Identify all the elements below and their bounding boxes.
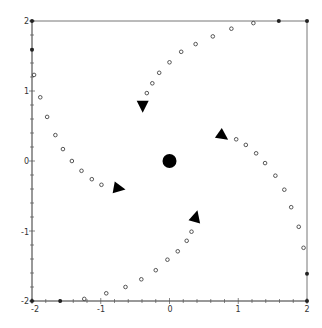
trajectory-point	[168, 61, 172, 65]
trajectory-point	[70, 159, 74, 163]
trajectory-point	[254, 152, 258, 156]
trajectory-point	[104, 292, 108, 296]
trajectory-point	[154, 268, 158, 272]
y-tick-label: 1	[24, 87, 29, 96]
boundary-dot	[305, 19, 309, 23]
trajectory-point	[230, 27, 234, 31]
trajectory-point	[234, 138, 238, 142]
y-tick-label: 0	[24, 157, 29, 166]
series-trajectory-top	[145, 21, 255, 95]
trajectory-point	[263, 161, 267, 165]
trajectory-point	[90, 177, 94, 181]
y-tick-label: -1	[21, 228, 29, 237]
trajectory-point	[289, 205, 293, 209]
trajectory-point	[38, 96, 42, 100]
arrow-down-icon	[137, 101, 149, 113]
boundary-dot	[305, 272, 309, 276]
trajectory-point	[157, 71, 161, 75]
trajectory-point	[82, 297, 86, 301]
x-tick-label: -2	[31, 305, 39, 314]
boundary-dot	[30, 19, 34, 23]
trajectory-point	[297, 225, 301, 229]
x-tick-label: 1	[235, 305, 240, 314]
phase-portrait-plot: -2 -1 0 1 2 2 1 0 -1 -2	[0, 0, 322, 328]
x-tick-label: -1	[97, 305, 105, 314]
series-trajectory-right	[234, 138, 305, 250]
arrow-right-icon	[113, 182, 127, 196]
trajectory-point	[211, 35, 215, 39]
x-axis-labels: -2 -1 0 1 2	[31, 305, 310, 314]
boundary-dot	[277, 19, 281, 23]
trajectory-point	[190, 230, 194, 234]
trajectory-point	[140, 278, 144, 282]
y-axis-labels: 2 1 0 -1 -2	[21, 17, 29, 306]
x-tick-label: 2	[304, 305, 309, 314]
boundary-dot	[30, 48, 34, 52]
arrow-up-icon	[189, 209, 204, 224]
trajectory-point	[45, 115, 49, 119]
y-tick-label: 2	[24, 17, 29, 26]
trajectory-point	[80, 169, 84, 173]
trajectory-point	[179, 50, 183, 54]
trajectory-point	[274, 174, 278, 178]
trajectory-point	[252, 21, 256, 25]
series-trajectory-bottom	[82, 230, 193, 301]
trajectory-point	[302, 246, 306, 250]
trajectory-point	[61, 147, 65, 151]
trajectory-point	[32, 73, 36, 77]
trajectory-point	[185, 239, 189, 243]
trajectory-point	[194, 42, 198, 46]
trajectory-point	[124, 285, 128, 289]
boundary-dot	[58, 299, 62, 303]
trajectory-point	[166, 258, 170, 262]
x-tick-label: 0	[167, 305, 172, 314]
trajectory-point	[100, 183, 104, 187]
trajectory-point	[283, 188, 287, 192]
series-trajectory-left	[32, 73, 103, 187]
trajectory-point	[244, 143, 248, 147]
boundary-dot	[305, 299, 309, 303]
arrow-down-right-icon	[215, 128, 232, 145]
boundary-dot	[30, 299, 34, 303]
trajectory-point	[145, 91, 149, 95]
trajectory-point	[176, 250, 180, 254]
trajectory-point	[151, 82, 155, 86]
trajectory-point	[54, 133, 58, 137]
y-tick-label: -2	[21, 297, 29, 306]
center-point-marker	[163, 154, 177, 168]
